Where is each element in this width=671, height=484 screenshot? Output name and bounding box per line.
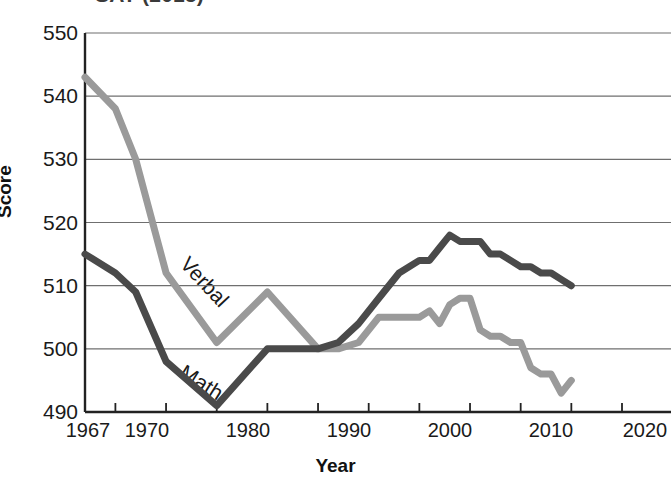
gridlines xyxy=(85,33,671,412)
plot-area xyxy=(0,0,671,484)
x-tick-marks xyxy=(115,403,622,412)
line-math xyxy=(85,235,571,406)
sat-scores-line-chart: SAT (2015) Score 550 540 530 520 510 500… xyxy=(0,0,671,484)
